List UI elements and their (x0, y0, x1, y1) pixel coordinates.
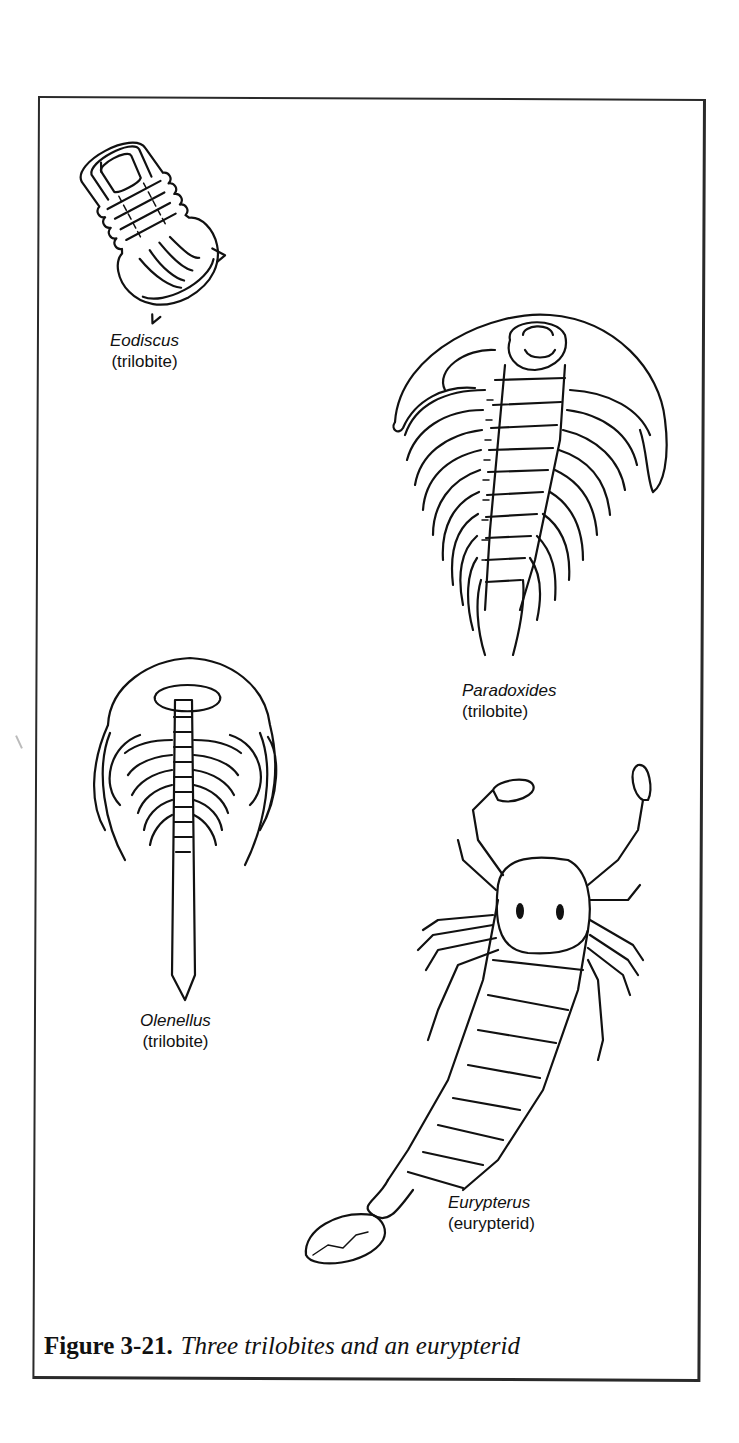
eurypterus-illustration (298, 760, 658, 1260)
paradoxides-illustration (385, 310, 675, 670)
figure-caption: Figure 3-21.Three trilobites and an eury… (44, 1332, 520, 1360)
olenellus-genus: Olenellus (140, 1010, 211, 1031)
eurypterus-genus: Eurypterus (448, 1192, 535, 1213)
eurypterus-group: (eurypterid) (448, 1213, 535, 1234)
olenellus-label: Olenellus (trilobite) (140, 1010, 211, 1052)
figure-number: Figure 3-21. (44, 1332, 173, 1359)
olenellus-illustration (80, 655, 290, 1000)
eurypterus-label: Eurypterus (eurypterid) (448, 1192, 535, 1234)
figure-title: Three trilobites and an eurypterid (181, 1332, 520, 1359)
paradoxides-genus: Paradoxides (462, 680, 557, 701)
olenellus-group: (trilobite) (140, 1031, 211, 1052)
paradoxides-group: (trilobite) (462, 701, 557, 722)
eodiscus-genus: Eodiscus (110, 330, 179, 351)
eodiscus-label: Eodiscus (trilobite) (110, 330, 179, 372)
eodiscus-group: (trilobite) (110, 351, 179, 372)
eodiscus-illustration (70, 125, 230, 325)
scan-speck (15, 735, 23, 749)
paradoxides-label: Paradoxides (trilobite) (462, 680, 557, 722)
